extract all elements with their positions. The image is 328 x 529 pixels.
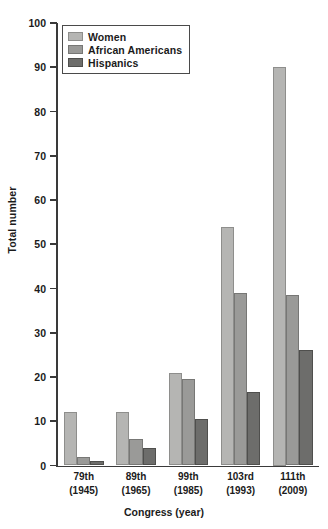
y-tick-label-0: 0 — [6, 460, 46, 472]
y-tick-90 — [50, 66, 57, 68]
y-tick-60 — [50, 199, 57, 201]
bar-hispanics-89th — [143, 448, 156, 466]
x-tick-year: (2009) — [258, 484, 328, 498]
bar-women-89th — [116, 412, 129, 465]
bar-african-americans-99th — [182, 379, 195, 465]
y-tick-80 — [50, 111, 57, 113]
legend-item-women: Women — [68, 30, 182, 43]
bar-african-americans-89th — [129, 439, 142, 466]
bar-african-americans-79th — [77, 457, 90, 466]
y-tick-label-90: 90 — [6, 61, 46, 73]
bar-hispanics-111th — [299, 350, 312, 465]
bar-hispanics-99th — [195, 419, 208, 465]
y-tick-70 — [50, 155, 57, 157]
legend-label: African Americans — [88, 44, 182, 56]
y-tick-label-100: 100 — [6, 17, 46, 29]
y-tick-30 — [50, 332, 57, 334]
y-tick-label-20: 20 — [6, 371, 46, 383]
bar-african-americans-103rd — [234, 293, 247, 466]
y-tick-label-60: 60 — [6, 194, 46, 206]
legend-item-african-americans: African Americans — [68, 43, 182, 56]
y-tick-label-10: 10 — [6, 415, 46, 427]
legend-swatch-icon — [68, 58, 83, 67]
x-axis-title: Congress (year) — [0, 506, 328, 518]
bar-african-americans-111th — [286, 295, 299, 465]
y-tick-20 — [50, 376, 57, 378]
y-tick-label-40: 40 — [6, 283, 46, 295]
y-tick-40 — [50, 288, 57, 290]
bar-women-111th — [273, 67, 286, 465]
legend-label: Women — [88, 31, 126, 43]
y-tick-10 — [50, 420, 57, 422]
bar-women-103rd — [221, 227, 234, 466]
legend-swatch-icon — [68, 45, 83, 54]
bars-layer — [0, 0, 328, 529]
bar-women-79th — [64, 412, 77, 465]
y-tick-label-30: 30 — [6, 327, 46, 339]
x-axis-line — [56, 466, 319, 468]
y-tick-label-50: 50 — [6, 238, 46, 250]
legend-label: Hispanics — [88, 57, 139, 69]
legend: WomenAfrican AmericansHispanics — [62, 25, 190, 74]
x-tick-congress: 111th — [258, 470, 328, 484]
y-tick-100 — [50, 22, 57, 24]
x-tick-label-111th: 111th(2009) — [258, 470, 328, 497]
y-tick-0 — [50, 465, 57, 467]
bar-chart: Total number 0102030405060708090100 79th… — [0, 0, 328, 529]
bar-women-99th — [169, 373, 182, 466]
y-axis-title: Total number — [6, 160, 18, 280]
y-tick-50 — [50, 243, 57, 245]
legend-item-hispanics: Hispanics — [68, 56, 182, 69]
y-tick-label-80: 80 — [6, 106, 46, 118]
bar-hispanics-103rd — [247, 392, 260, 465]
legend-swatch-icon — [68, 32, 83, 41]
y-tick-label-70: 70 — [6, 150, 46, 162]
